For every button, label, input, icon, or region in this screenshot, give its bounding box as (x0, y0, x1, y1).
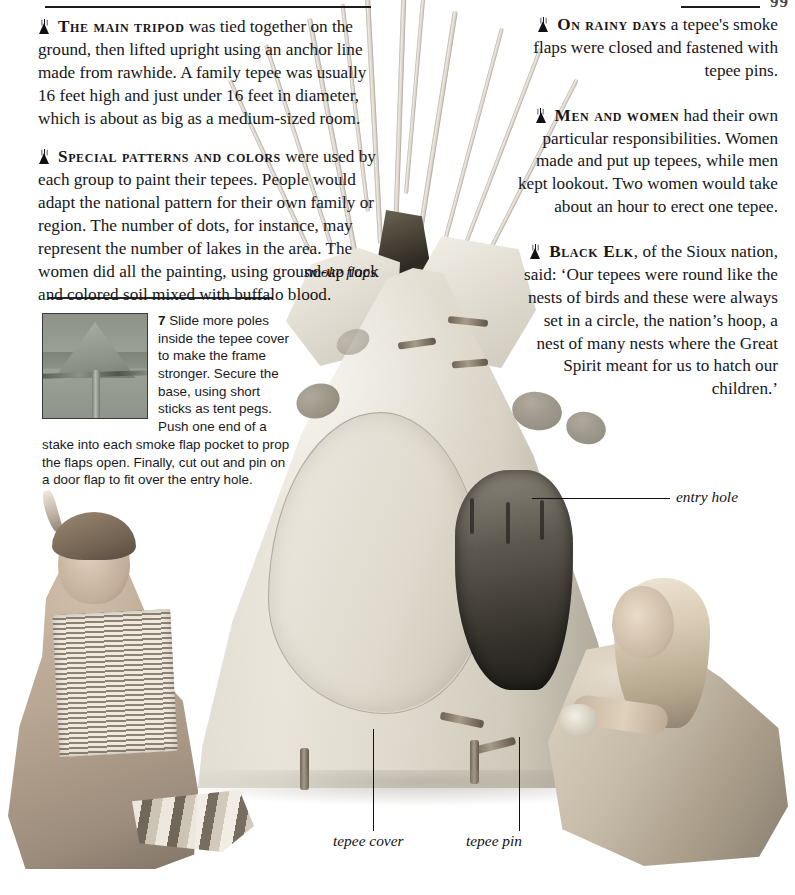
leader-line-tepee-cover (373, 729, 374, 831)
tepee-icon (38, 149, 51, 164)
paragraph-lead-in: The main tripod (58, 17, 184, 36)
tepee-icon (38, 19, 51, 34)
striped-blanket (132, 790, 254, 852)
tepee-icon (529, 244, 542, 259)
boy-hair (52, 512, 136, 560)
page-number: 99 (770, 0, 789, 12)
header-rule-right (681, 6, 760, 8)
paragraph-lead-in: Special patterns and colors (58, 147, 281, 166)
paragraph-lead-in: Men and women (555, 106, 680, 125)
paragraph-on-rainy-days: On rainy days a tepee's smoke flaps were… (516, 14, 778, 83)
lacing-pin (506, 502, 510, 544)
paragraph-special-patterns: Special patterns and colors were used by… (38, 146, 386, 306)
thumbnail-pole (92, 370, 100, 418)
paragraph-main-tripod: The main tripod was tied together on the… (38, 16, 386, 130)
callout-label-tepee-cover: tepee cover (333, 832, 404, 850)
callout-label-entry-hole: entry hole (676, 488, 738, 506)
paragraph-black-elk: Black Elk, of the Sioux nation, said: ‘O… (516, 241, 778, 401)
header-rule-left (45, 6, 371, 8)
lacing-pin (540, 500, 544, 540)
bone-breastplate (52, 609, 177, 757)
leader-line-entry-hole (532, 498, 670, 499)
paragraph-men-and-women: Men and women had their own particular r… (516, 105, 778, 219)
tepee-icon (535, 108, 548, 123)
callout-label-tepee-pin: tepee pin (466, 832, 522, 850)
step-thumbnail-photo (42, 313, 148, 419)
leader-line-tepee-pin (519, 737, 520, 831)
tepee-icon (537, 17, 550, 32)
paragraph-body: , of the Sioux nation, said: ‘Our tepees… (524, 242, 778, 398)
paragraph-lead-in: Black Elk (549, 242, 634, 261)
lacing-pin (470, 498, 474, 534)
paper-base (0, 869, 795, 895)
callout-label-smoke-flaps: smoke flaps (304, 263, 376, 281)
right-text-column: On rainy days a tepee's smoke flaps were… (516, 14, 778, 423)
tepee-pole (404, 0, 425, 194)
girl-head (612, 586, 674, 658)
paragraph-lead-in: On rainy days (557, 15, 666, 34)
step-instruction-block: 7 Slide more poles inside the tepee cove… (42, 312, 290, 489)
